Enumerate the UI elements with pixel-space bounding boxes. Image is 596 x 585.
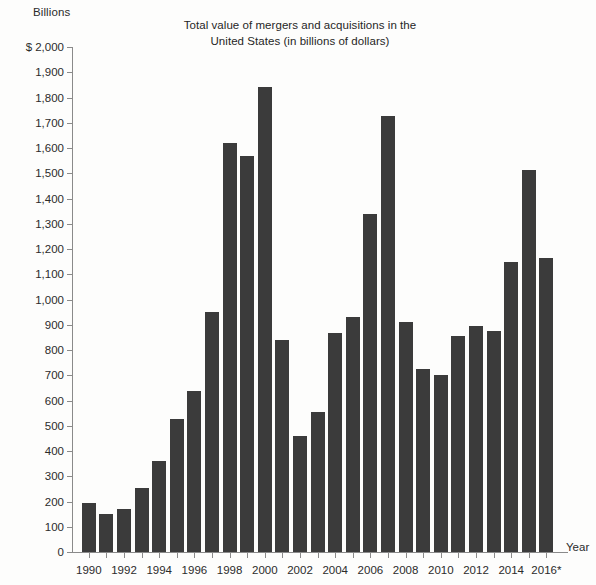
y-axis-tick-label: 1,800 xyxy=(35,92,64,104)
bar xyxy=(469,326,483,552)
y-axis-tick-mark xyxy=(67,199,72,200)
x-axis-tick-mark xyxy=(247,553,248,558)
bar xyxy=(240,156,254,552)
y-axis-tick-label: 1,000 xyxy=(35,294,64,306)
y-axis-tick-label: 1,700 xyxy=(35,117,64,129)
y-axis-tick-mark xyxy=(67,173,72,174)
y-axis-tick-label: 1,500 xyxy=(35,167,64,179)
x-axis-tick-label: 1996 xyxy=(182,564,208,576)
x-axis-tick-label: 2010 xyxy=(428,564,454,576)
bar xyxy=(275,340,289,552)
x-axis-tick-label: 1998 xyxy=(217,564,243,576)
bar xyxy=(522,170,536,552)
x-axis-tick-mark xyxy=(142,553,143,558)
x-axis-tick-mark xyxy=(406,553,407,558)
bar xyxy=(135,488,149,552)
x-axis-tick-mark xyxy=(230,553,231,558)
y-axis-tick-mark xyxy=(67,426,72,427)
x-axis-tick-label: 2008 xyxy=(393,564,419,576)
bar xyxy=(293,436,307,552)
bar xyxy=(82,503,96,552)
y-axis-tick-mark xyxy=(67,527,72,528)
x-axis-tick-label: 2014 xyxy=(498,564,524,576)
y-axis-unit-label: Billions xyxy=(33,6,70,18)
chart-title-line-1: Total value of mergers and acquisitions … xyxy=(150,18,450,34)
x-axis-tick-label: 2006 xyxy=(358,564,384,576)
x-axis-tick-mark xyxy=(458,553,459,558)
x-axis-tick-mark xyxy=(335,553,336,558)
y-axis-tick-mark xyxy=(67,350,72,351)
bar xyxy=(99,514,113,552)
y-axis-tick-mark xyxy=(67,72,72,73)
y-axis-tick-label: 400 xyxy=(45,445,64,457)
bar xyxy=(170,419,184,552)
x-axis-tick-mark xyxy=(300,553,301,558)
x-axis-tick-mark xyxy=(529,553,530,558)
y-axis-tick-label: 500 xyxy=(45,420,64,432)
x-axis-tick-mark xyxy=(106,553,107,558)
bar xyxy=(223,143,237,552)
x-axis-tick-label: 2012 xyxy=(463,564,489,576)
x-axis-tick-label: 2016* xyxy=(531,564,561,576)
y-axis-tick-label: 0 xyxy=(58,546,64,558)
x-axis-tick-mark xyxy=(194,553,195,558)
x-axis-tick-mark xyxy=(282,553,283,558)
y-axis-tick-label: 300 xyxy=(45,470,64,482)
chart-container: Billions Total value of mergers and acqu… xyxy=(0,0,596,585)
y-axis-tick-label: 800 xyxy=(45,344,64,356)
bar xyxy=(451,336,465,552)
x-axis-tick-label: 1990 xyxy=(76,564,102,576)
y-axis-line xyxy=(72,47,73,553)
y-axis-tick-mark xyxy=(67,552,72,553)
y-axis-tick-mark xyxy=(67,375,72,376)
y-axis-tick-mark xyxy=(67,123,72,124)
plot-area: $ 2,0001,9001,8001,7001,6001,5001,4001,3… xyxy=(72,47,562,553)
x-axis-tick-mark xyxy=(124,553,125,558)
x-axis-tick-mark xyxy=(212,553,213,558)
y-axis-tick-mark xyxy=(67,502,72,503)
y-axis-tick-label: 1,100 xyxy=(35,268,64,280)
y-axis-tick-mark xyxy=(67,300,72,301)
x-axis-tick-mark xyxy=(476,553,477,558)
y-axis-tick-label: 200 xyxy=(45,496,64,508)
x-axis-tick-mark xyxy=(370,553,371,558)
y-axis-tick-mark xyxy=(67,249,72,250)
chart-title: Total value of mergers and acquisitions … xyxy=(150,18,450,49)
y-axis-tick-mark xyxy=(67,224,72,225)
bar xyxy=(539,258,553,552)
x-axis-tick-label: 1992 xyxy=(111,564,137,576)
bar xyxy=(258,87,272,552)
x-axis-tick-label: 1994 xyxy=(146,564,172,576)
y-axis-tick-mark xyxy=(67,47,72,48)
y-axis-tick-mark xyxy=(67,274,72,275)
y-axis-tick-label: 1,200 xyxy=(35,243,64,255)
y-axis-tick-label: 1,600 xyxy=(35,142,64,154)
x-axis-tick-mark xyxy=(318,553,319,558)
y-axis-tick-label: 1,900 xyxy=(35,66,64,78)
y-axis-tick-mark xyxy=(67,401,72,402)
bar xyxy=(363,214,377,552)
x-axis-tick-mark xyxy=(177,553,178,558)
y-axis-tick-mark xyxy=(67,451,72,452)
y-axis-tick-mark xyxy=(67,476,72,477)
bar xyxy=(205,312,219,552)
x-axis-tick-mark xyxy=(89,553,90,558)
x-axis-tick-label: 2002 xyxy=(287,564,313,576)
x-axis-tick-mark xyxy=(159,553,160,558)
bar xyxy=(434,375,448,552)
bar xyxy=(504,262,518,552)
x-axis-tick-mark xyxy=(423,553,424,558)
x-axis-tick-label: 2004 xyxy=(322,564,348,576)
bar xyxy=(328,333,342,552)
x-axis-tick-label: 2000 xyxy=(252,564,278,576)
bar xyxy=(399,322,413,552)
y-axis-tick-label: 600 xyxy=(45,395,64,407)
bar xyxy=(187,391,201,552)
x-axis-tick-mark xyxy=(353,553,354,558)
x-axis-title: Year xyxy=(566,541,589,553)
y-axis-tick-label: $ 2,000 xyxy=(26,41,64,53)
bar xyxy=(381,116,395,552)
bar xyxy=(152,461,166,552)
y-axis-tick-label: 100 xyxy=(45,521,64,533)
bar xyxy=(311,412,325,552)
